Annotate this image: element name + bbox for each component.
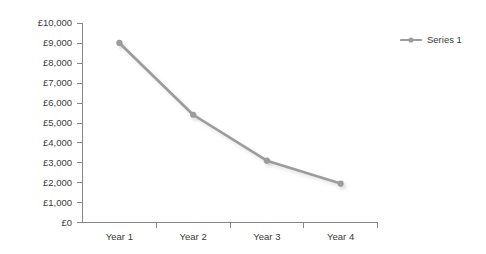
y-axis-label: £9,000 [8, 38, 72, 48]
legend-line-marker-icon [400, 35, 422, 45]
y-axis-label: £7,000 [8, 78, 72, 88]
chart-legend: Series 1 [400, 35, 462, 45]
x-axis-label: Year 1 [83, 232, 157, 242]
y-axis-label: £3,000 [8, 158, 72, 168]
y-axis-label: £6,000 [8, 98, 72, 108]
series-1 [116, 40, 343, 187]
x-axis-label: Year 3 [230, 232, 304, 242]
y-axis-label: £5,000 [8, 118, 72, 128]
y-axis-label: £8,000 [8, 58, 72, 68]
x-axis-ticks [156, 223, 377, 229]
y-axis-label: £10,000 [8, 18, 72, 28]
y-axis-label: £4,000 [8, 138, 72, 148]
x-axis-label: Year 2 [156, 232, 230, 242]
legend-item-series-1[interactable]: Series 1 [400, 35, 462, 45]
y-axis-label: £1,000 [8, 198, 72, 208]
series-1-shadow [118, 42, 346, 190]
legend-label: Series 1 [427, 35, 462, 45]
x-axis-label: Year 4 [304, 232, 378, 242]
y-axis-label: £2,000 [8, 178, 72, 188]
y-axis-ticks [77, 24, 83, 223]
line-chart: £10,000 £9,000 £8,000 £7,000 £6,000 £5,0… [0, 0, 486, 254]
y-axis-label: £0 [8, 218, 72, 228]
